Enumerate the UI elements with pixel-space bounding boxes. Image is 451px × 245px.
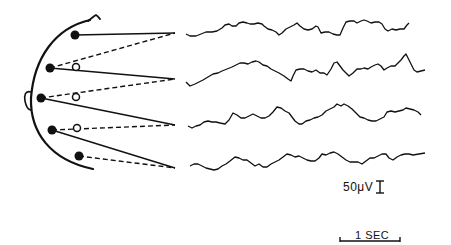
solid-lead-1 (75, 33, 175, 35)
electrode-filled-5 (75, 152, 84, 161)
eeg-trace-2 (186, 54, 425, 86)
electrode-filled-3 (37, 94, 46, 103)
head-profile (25, 15, 100, 169)
eeg-traces (186, 20, 425, 170)
dashed-lead-3 (52, 125, 175, 130)
dashed-lead-2 (41, 79, 175, 98)
eeg-trace-3 (188, 104, 421, 128)
nose-bump (88, 15, 100, 21)
eeg-trace-4 (190, 152, 425, 170)
solid-lead-3 (41, 98, 175, 125)
electrode-filled-4 (48, 126, 57, 135)
electrode-filled-1 (71, 31, 80, 40)
amplitude-calibration-bar (376, 181, 384, 193)
dashed-lead-1 (50, 33, 175, 68)
amplitude-scale-label: 50μV (343, 180, 373, 194)
electrode-filled-2 (46, 64, 55, 73)
dashed-lead-4 (79, 156, 175, 168)
electrode-open-2 (73, 94, 80, 101)
electrode-open-3 (74, 125, 81, 132)
eeg-diagram (0, 0, 451, 245)
solid-leads (41, 33, 175, 168)
eeg-trace-1 (186, 20, 409, 36)
time-scale-label: 1 SEC (355, 229, 389, 241)
solid-lead-2 (50, 68, 175, 79)
reference-electrodes (73, 64, 81, 132)
electrode-open-1 (73, 64, 80, 71)
